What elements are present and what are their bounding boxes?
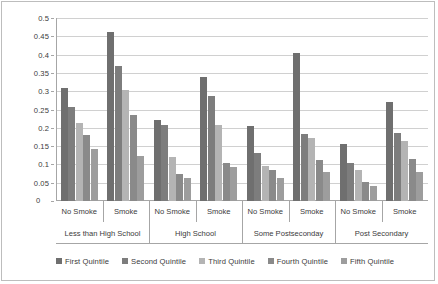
y-axis-tick-label: 0.5 <box>38 14 49 23</box>
bar <box>107 32 114 201</box>
legend-label: Second Quintile <box>131 257 186 266</box>
bar <box>61 88 68 201</box>
bars-layer <box>56 18 428 201</box>
y-axis-tick-mark <box>51 73 54 74</box>
bar <box>215 125 222 201</box>
legend-swatch-icon <box>268 258 274 264</box>
y-axis-tick-label: 0.4 <box>38 50 49 59</box>
bar <box>386 102 393 201</box>
y-axis-tick-mark <box>51 201 54 202</box>
axis-separator <box>335 222 336 244</box>
bar <box>293 53 300 201</box>
bar-group <box>103 18 150 201</box>
axis-separator <box>335 201 336 222</box>
legend-label: First Quintile <box>65 257 109 266</box>
y-axis-tick-mark <box>51 183 54 184</box>
bar <box>230 167 237 201</box>
bar-group <box>289 18 336 201</box>
bar <box>91 149 98 201</box>
legend-swatch-icon <box>199 258 205 264</box>
category-label-smoking: Smoke <box>382 201 429 222</box>
bar <box>154 120 161 201</box>
category-axis-row-education: Less than High SchoolHigh SchoolSome Pos… <box>56 222 428 244</box>
bar <box>200 77 207 201</box>
legend-item: Second Quintile <box>122 257 186 266</box>
legend-swatch-icon <box>56 258 62 264</box>
bar <box>184 178 191 201</box>
bar <box>223 163 230 201</box>
category-label-smoking: Smoke <box>196 201 243 222</box>
y-axis-tick-mark <box>51 110 54 111</box>
legend-item: First Quintile <box>56 257 109 266</box>
y-axis-tick-label: 0.3 <box>38 87 49 96</box>
bar <box>262 166 269 201</box>
bar <box>323 172 330 201</box>
bar <box>122 90 129 201</box>
bar <box>401 141 408 201</box>
category-label-smoking: No Smoke <box>242 201 289 222</box>
bar-group <box>56 18 103 201</box>
axis-separator <box>289 201 290 222</box>
axis-separator <box>382 201 383 222</box>
y-axis-tick-labels: 0.050.10.150.20.250.30.350.40.450.5 <box>2 18 54 201</box>
bar-group <box>149 18 196 201</box>
bar <box>208 96 215 201</box>
legend-item: Third Quintile <box>199 257 255 266</box>
bar <box>176 174 183 201</box>
y-axis-tick-mark <box>51 55 54 56</box>
bar <box>68 107 75 201</box>
bar <box>355 170 362 201</box>
bar <box>115 66 122 201</box>
axis-separator <box>242 222 243 244</box>
bar <box>269 170 276 201</box>
bar <box>254 153 261 201</box>
bar <box>370 186 377 201</box>
category-axis-row-smoking: No SmokeSmokeNo SmokeSmokeNo SmokeSmokeN… <box>56 201 428 222</box>
chart-legend: First QuintileSecond QuintileThird Quint… <box>56 249 428 273</box>
y-axis-tick-mark <box>51 128 54 129</box>
category-label-education: High School <box>149 222 242 244</box>
bar <box>161 125 168 201</box>
bar <box>130 115 137 201</box>
legend-label: Fourth Quintile <box>277 257 328 266</box>
category-label-smoking: Smoke <box>289 201 336 222</box>
axis-separator <box>196 201 197 222</box>
bar <box>409 159 416 201</box>
legend-label: Third Quintile <box>208 257 255 266</box>
bar <box>362 182 369 201</box>
bar <box>247 126 254 201</box>
bar <box>76 123 83 201</box>
bar <box>169 157 176 201</box>
legend-swatch-icon <box>122 258 128 264</box>
bar <box>83 135 90 201</box>
y-axis-tick-mark <box>51 164 54 165</box>
category-label-smoking: Smoke <box>103 201 150 222</box>
bar-group <box>242 18 289 201</box>
category-label-smoking: No Smoke <box>149 201 196 222</box>
legend-label: Fifth Quintile <box>350 257 394 266</box>
bar <box>316 160 323 201</box>
y-axis-tick-mark <box>51 146 54 147</box>
legend-item: Fourth Quintile <box>268 257 328 266</box>
y-axis-tick-label: 0.05 <box>34 178 49 187</box>
bar <box>416 172 423 201</box>
bar-group <box>335 18 382 201</box>
axis-separator <box>149 222 150 244</box>
category-label-smoking: No Smoke <box>56 201 103 222</box>
y-axis-tick-label: 0.35 <box>34 68 49 77</box>
bar <box>137 156 144 201</box>
y-axis-tick-label: 0.2 <box>38 123 49 132</box>
y-axis-tick-label: 0.45 <box>34 32 49 41</box>
category-label-education: Post Secondary <box>335 222 428 244</box>
bar <box>301 134 308 201</box>
bar-group <box>382 18 429 201</box>
bar <box>394 133 401 201</box>
bar <box>277 178 284 201</box>
y-axis-tick-label: 0.1 <box>38 160 49 169</box>
axis-separator <box>103 201 104 222</box>
y-axis-tick-mark <box>51 91 54 92</box>
category-label-education: Some Postseconday <box>242 222 335 244</box>
legend-item: Fifth Quintile <box>341 257 394 266</box>
y-axis-zero-label: 0 <box>36 196 40 205</box>
bar <box>340 144 347 201</box>
